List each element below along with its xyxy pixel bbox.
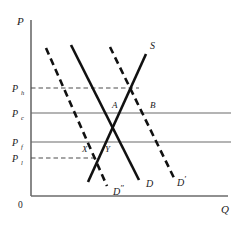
price-label-pc: P c (11, 108, 24, 121)
price-label-pc-subscript: c (21, 114, 24, 121)
supply-demand-figure: P Q 0 P h P c P f P l S D ″ D D ′ (0, 0, 238, 226)
curve-demand-double-prime (46, 48, 107, 186)
x-axis-label: Q (221, 203, 229, 215)
price-label-pf-subscript: f (21, 143, 24, 150)
axes-group (31, 20, 228, 196)
curve-label-dp-prime: ′ (184, 174, 187, 184)
price-label-pf: P f (11, 137, 24, 150)
point-label-y: Y (105, 144, 111, 154)
price-label-pl-base: P (11, 153, 18, 164)
price-guides-group (31, 88, 231, 158)
curve-label-demand-prime: D ′ (176, 174, 187, 188)
price-label-ph-subscript: h (21, 89, 24, 96)
point-label-x: X (81, 144, 88, 154)
point-label-b: B (150, 100, 156, 110)
curve-label-dpp-prime: ″ (120, 183, 124, 193)
curve-label-demand: D (145, 178, 154, 189)
diagram-canvas: P Q 0 P h P c P f P l S D ″ D D ′ (0, 0, 238, 226)
curve-label-demand-double-prime: D ″ (112, 183, 124, 197)
price-label-pl: P l (11, 153, 23, 166)
price-label-pf-base: P (11, 137, 18, 148)
origin-label: 0 (18, 200, 23, 210)
price-label-pl-subscript: l (21, 159, 23, 166)
price-label-pc-base: P (11, 108, 18, 119)
price-label-ph-base: P (11, 83, 18, 94)
curve-label-supply: S (150, 40, 155, 51)
y-axis-label: P (16, 15, 24, 27)
price-label-ph: P h (11, 83, 24, 96)
curve-supply (88, 54, 146, 182)
point-label-a: A (111, 100, 118, 110)
